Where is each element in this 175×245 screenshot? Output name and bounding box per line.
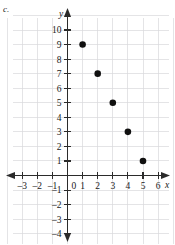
x-axis-label: x <box>164 180 170 190</box>
axis-names-layer: xy <box>58 9 170 190</box>
data-point <box>125 129 132 136</box>
y-tick-label: 7 <box>57 69 62 79</box>
data-point <box>110 99 117 106</box>
y-tick-label: 2 <box>57 142 62 152</box>
y-tick-label: 8 <box>57 55 62 65</box>
y-tick-label: 6 <box>57 84 62 94</box>
y-tick-label: –2 <box>51 200 62 210</box>
origin-label: 0 <box>72 181 77 191</box>
y-tick-label: –1 <box>51 185 62 195</box>
y-tick-label: –3 <box>51 215 62 225</box>
y-tick-label: –4 <box>51 229 62 239</box>
x-tick-label: 3 <box>110 181 115 191</box>
x-tick-label: 5 <box>141 181 146 191</box>
y-tick-label: 10 <box>52 25 62 35</box>
x-tick-label: –2 <box>32 181 43 191</box>
x-tick-label: 1 <box>80 181 85 191</box>
y-tick-label: 1 <box>57 156 62 166</box>
data-point <box>94 70 101 77</box>
x-tick-label: 2 <box>95 181 100 191</box>
y-axis-arrow-up <box>64 8 71 17</box>
axes-layer <box>6 8 170 242</box>
y-tick-label: 5 <box>57 98 62 108</box>
coordinate-plane-figure: c. –3–2–1123456–4–3–2–1123456789100 xy <box>0 0 175 245</box>
x-axis-arrow-right <box>161 172 170 179</box>
y-tick-label: 3 <box>57 127 62 137</box>
x-tick-label: 4 <box>126 181 131 191</box>
data-point <box>140 158 147 165</box>
part-label: c. <box>3 4 9 14</box>
data-point <box>79 41 86 48</box>
scatter-plot: –3–2–1123456–4–3–2–1123456789100 xy <box>0 0 175 245</box>
grid-layer <box>7 15 173 243</box>
tick-labels-layer: –3–2–1123456–4–3–2–1123456789100 <box>16 25 160 239</box>
y-tick-label: 4 <box>57 113 62 123</box>
y-axis-label: y <box>58 9 64 19</box>
y-tick-label: 9 <box>57 40 62 50</box>
y-axis-arrow-down <box>64 233 71 242</box>
x-tick-label: 6 <box>156 181 161 191</box>
x-tick-label: –3 <box>16 181 27 191</box>
